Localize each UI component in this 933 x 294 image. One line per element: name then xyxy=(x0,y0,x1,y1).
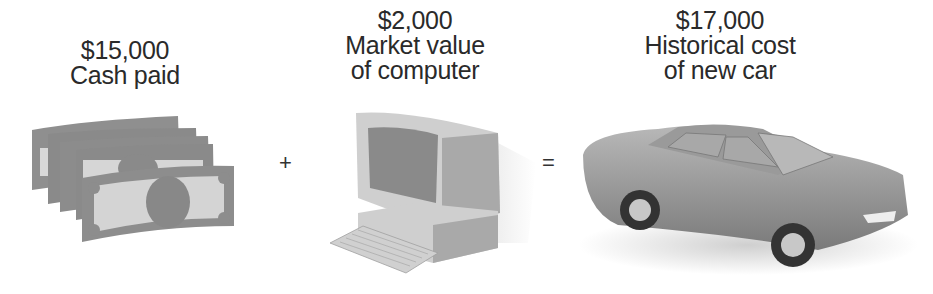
computer-amount: $2,000 xyxy=(325,8,505,33)
car-amount: $17,000 xyxy=(620,8,820,33)
computer-description-line2: of computer xyxy=(325,58,505,83)
plus-operator: + xyxy=(279,150,292,176)
cash-amount: $15,000 xyxy=(55,38,195,63)
car-description-line1: Historical cost xyxy=(620,33,820,58)
computer-label: $2,000 Market value of computer xyxy=(325,8,505,83)
computer-icon xyxy=(318,103,538,288)
cash-label: $15,000 Cash paid xyxy=(55,38,195,88)
car-label: $17,000 Historical cost of new car xyxy=(620,8,820,83)
cash-description: Cash paid xyxy=(55,63,195,88)
cash-icon xyxy=(28,108,238,243)
computer-description-line1: Market value xyxy=(325,33,505,58)
car-icon xyxy=(578,115,918,285)
equals-operator: = xyxy=(542,150,555,176)
car-description-line2: of new car xyxy=(620,58,820,83)
